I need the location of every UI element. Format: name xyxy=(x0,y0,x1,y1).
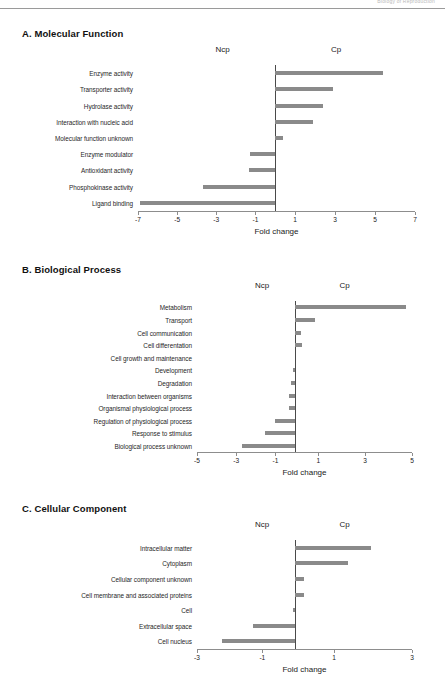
category-label: Cell xyxy=(181,607,192,614)
bar xyxy=(295,593,304,597)
tick-label: 5 xyxy=(410,457,414,464)
category-label: Enzyme modulator xyxy=(81,151,133,158)
tick-mark xyxy=(318,453,319,456)
bar xyxy=(289,394,295,398)
tick-mark xyxy=(334,650,335,653)
category-label: Cellular component unknown xyxy=(111,576,192,583)
category-label: Cell nucleus xyxy=(158,638,192,645)
bar xyxy=(295,577,304,581)
tick-label: -5 xyxy=(174,216,180,223)
tick-label: 3 xyxy=(363,457,367,464)
group-headers: Ncp Cp xyxy=(0,45,445,61)
tick-label: -1 xyxy=(252,216,258,223)
running-head-rule xyxy=(0,8,445,9)
tick-mark xyxy=(275,453,276,456)
tick-label: -3 xyxy=(213,216,219,223)
tick-mark xyxy=(415,212,416,215)
bar xyxy=(140,201,275,205)
group-headers: Ncp Cp xyxy=(0,520,445,536)
panel-biological-process: B. Biological Process Ncp Cp MetabolismT… xyxy=(0,264,445,297)
tick-mark xyxy=(365,453,366,456)
category-label: Interaction between organisms xyxy=(106,392,192,399)
tick-mark xyxy=(335,212,336,215)
tick-mark xyxy=(375,212,376,215)
tick-mark xyxy=(255,212,256,215)
bar xyxy=(242,444,295,448)
category-label: Cytoplasm xyxy=(162,560,192,567)
tick-label: -3 xyxy=(194,654,200,661)
group-label-ncp: Ncp xyxy=(255,520,269,529)
category-label: Cell growth and maintenance xyxy=(111,354,192,361)
bar xyxy=(295,343,302,347)
plot-area xyxy=(197,301,412,452)
group-label-cp: Cp xyxy=(331,45,341,54)
running-head-text: Biology of Reproduction xyxy=(377,0,435,4)
category-label: Intracellular matter xyxy=(140,544,192,551)
x-axis-line xyxy=(197,649,412,650)
tick-label: 5 xyxy=(373,216,377,223)
bar xyxy=(293,608,295,612)
x-axis-title: Fold change xyxy=(282,665,326,674)
bar xyxy=(295,305,406,309)
category-label: Enzyme activity xyxy=(89,70,133,77)
bar xyxy=(275,104,323,108)
panel-title: C. Cellular Component xyxy=(22,503,445,514)
tick-mark xyxy=(138,212,139,215)
bar xyxy=(295,546,371,550)
bar xyxy=(295,318,315,322)
tick-label: 1 xyxy=(332,654,336,661)
category-label: Organismal physiological process xyxy=(98,405,192,412)
bar xyxy=(295,331,301,335)
tick-mark xyxy=(236,453,237,456)
category-label: Hydrolase activity xyxy=(84,102,133,109)
running-head: Biology of Reproduction xyxy=(0,0,445,11)
bar xyxy=(253,624,295,628)
group-label-ncp: Ncp xyxy=(215,45,229,54)
bar xyxy=(275,120,313,124)
category-label: Transporter activity xyxy=(80,86,133,93)
category-label: Ligand binding xyxy=(92,199,133,206)
tick-label: -1 xyxy=(272,457,278,464)
group-label-ncp: Ncp xyxy=(255,281,269,290)
tick-label: 3 xyxy=(410,654,414,661)
category-label: Degradation xyxy=(158,379,192,386)
tick-mark xyxy=(216,212,217,215)
category-label: Metabolism xyxy=(160,304,192,311)
group-label-cp: Cp xyxy=(339,520,349,529)
bar xyxy=(275,136,283,140)
category-label: Extracellular space xyxy=(139,622,192,629)
category-label: Antioxidant activity xyxy=(81,167,133,174)
bar xyxy=(250,152,275,156)
tick-mark xyxy=(412,650,413,653)
bar xyxy=(275,419,295,423)
x-axis-title: Fold change xyxy=(254,227,298,236)
panel-cellular-component: C. Cellular Component Ncp Cp Intracellul… xyxy=(0,503,445,536)
tick-mark xyxy=(295,212,296,215)
category-label: Regulation of physiological process xyxy=(94,417,192,424)
category-label: Phosphokinase activity xyxy=(69,183,133,190)
x-axis-line xyxy=(138,211,415,212)
bar xyxy=(275,87,333,91)
zero-axis-line xyxy=(295,301,296,452)
panel-title: B. Biological Process xyxy=(22,264,445,275)
bar xyxy=(275,71,383,75)
tick-mark xyxy=(412,453,413,456)
tick-label: -3 xyxy=(233,457,239,464)
category-label: Molecular function unknown xyxy=(55,134,133,141)
tick-mark xyxy=(197,453,198,456)
bar xyxy=(222,639,296,643)
category-label: Cell membrane and associated proteins xyxy=(81,591,192,598)
group-label-cp: Cp xyxy=(339,281,349,290)
group-headers: Ncp Cp xyxy=(0,281,445,297)
bar xyxy=(249,168,275,172)
x-axis-title: Fold change xyxy=(282,468,326,477)
plot-area xyxy=(197,540,412,649)
bar xyxy=(289,406,295,410)
tick-label: 1 xyxy=(293,216,297,223)
category-label: Response to stimulus xyxy=(132,430,192,437)
tick-label: -5 xyxy=(194,457,200,464)
tick-mark xyxy=(177,212,178,215)
category-label: Cell differentation xyxy=(143,342,192,349)
tick-label: 1 xyxy=(317,457,321,464)
category-label: Interaction with nucleic acid xyxy=(56,118,133,125)
